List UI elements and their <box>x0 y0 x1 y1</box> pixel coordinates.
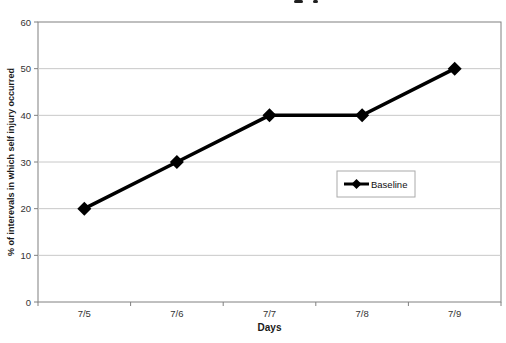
x-tick-label: 7/8 <box>355 308 368 319</box>
x-tick-label: 7/5 <box>78 308 91 319</box>
y-tick-label: 60 <box>20 17 31 28</box>
y-tick-label: 10 <box>20 250 31 261</box>
x-tick-label: 7/9 <box>448 308 461 319</box>
legend-label: Baseline <box>371 179 407 190</box>
x-axis-title: Days <box>258 322 282 333</box>
clipped-chart-title-fragment <box>313 0 318 3</box>
x-tick-label: 7/7 <box>263 308 276 319</box>
x-tick-label: 7/6 <box>170 308 183 319</box>
clipped-chart-title-fragment <box>294 0 303 3</box>
y-tick-label: 0 <box>26 297 31 308</box>
y-axis-title: % of interevals in which self injury occ… <box>6 68 16 256</box>
y-tick-label: 40 <box>20 110 31 121</box>
y-tick-label: 50 <box>20 63 31 74</box>
y-tick-label: 20 <box>20 203 31 214</box>
line-chart-figure: 01020304050607/57/67/77/87/9Days% of int… <box>0 0 506 343</box>
y-tick-label: 30 <box>20 157 31 168</box>
chart-svg: 01020304050607/57/67/77/87/9Days% of int… <box>0 0 506 343</box>
